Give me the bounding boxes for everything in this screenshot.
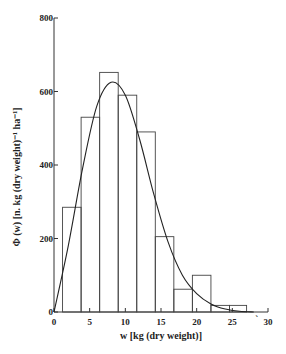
histogram-bar <box>155 237 174 312</box>
histogram-bar <box>192 275 211 312</box>
y-axis-title: Φ (w) [n. kg (dry weight)⁻¹ ha⁻¹] <box>11 107 23 246</box>
axes <box>54 18 268 312</box>
histogram-bar <box>137 132 156 312</box>
x-axis-title: w [kg (dry weight)] <box>120 330 202 342</box>
x-tick-label: 10 <box>121 317 131 327</box>
x-tick-label: 20 <box>192 317 202 327</box>
y-tick-label: 800 <box>40 13 54 23</box>
x-tick-label: 5 <box>87 317 92 327</box>
histogram-bar <box>174 289 193 312</box>
y-tick-label: 200 <box>40 234 54 244</box>
histogram-bar <box>100 72 119 312</box>
axis-labels: 0200400600800051015202530`w [kg (dry wei… <box>11 13 273 342</box>
histogram-bar <box>211 305 230 312</box>
y-tick-label: 0 <box>49 307 54 317</box>
x-tick-label: 30 <box>264 317 274 327</box>
x-tick-label: 25 <box>228 317 238 327</box>
histogram-bar <box>118 95 137 312</box>
y-tick-label: 600 <box>40 87 54 97</box>
x-tick-label: 0 <box>52 317 57 327</box>
fitted-curve <box>54 82 254 312</box>
annotation-mark: ` <box>255 314 258 324</box>
x-tick-label: 15 <box>157 317 167 327</box>
histogram-chart: 0200400600800051015202530`w [kg (dry wei… <box>0 0 286 354</box>
y-tick-label: 400 <box>40 160 54 170</box>
histogram-bars <box>63 72 247 312</box>
histogram-bar <box>81 117 100 312</box>
